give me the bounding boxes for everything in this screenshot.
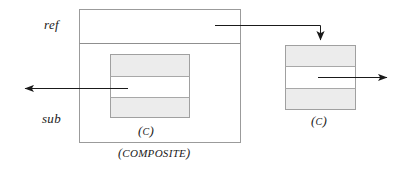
label-composite: (COMPOSITE) (118, 147, 190, 160)
label-ref: ref (44, 18, 59, 31)
inner-c-box (111, 55, 190, 118)
label-composite-close: ) (186, 146, 190, 160)
right-c-band-bottom (286, 89, 355, 109)
right-c-band-top (286, 46, 355, 66)
label-sub: sub (42, 112, 61, 125)
label-right-c-letter: C (316, 116, 323, 127)
label-inner-c-letter: C (143, 126, 150, 137)
diagram-canvas: ref sub (C) (C) (COMPOSITE) (0, 0, 410, 170)
inner-c-band-bottom (111, 98, 189, 117)
diagram-graphics (0, 0, 410, 170)
inner-c-band-top (111, 55, 189, 76)
label-inner-c: (C) (138, 124, 154, 137)
label-right-c: (C) (311, 114, 327, 127)
label-right-c-close: ) (323, 113, 328, 128)
label-inner-c-close: ) (150, 123, 155, 138)
label-composite-text: COMPOSITE (122, 147, 186, 159)
